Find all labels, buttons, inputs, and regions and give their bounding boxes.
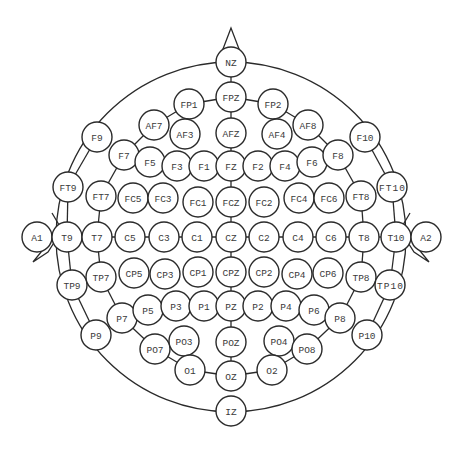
electrode-label: FT7 <box>92 192 109 203</box>
electrode-p6: P6 <box>299 295 329 325</box>
electrode-tp7: TP7 <box>86 262 116 292</box>
electrode-oz: OZ <box>216 361 246 391</box>
electrode-f5: F5 <box>135 147 165 177</box>
electrode-label: CP1 <box>189 268 206 279</box>
electrode-o2: O2 <box>257 355 287 385</box>
electrode-label: P4 <box>280 302 292 313</box>
electrode-afz: AFZ <box>216 118 246 148</box>
electrode-label: FC4 <box>290 194 307 205</box>
electrode-p7: P7 <box>107 303 137 333</box>
electrode-t10: T10 <box>381 222 411 252</box>
electrode-ft10: FT10 <box>377 172 407 202</box>
electrode-cp2: CP2 <box>249 257 279 287</box>
electrode-f3: F3 <box>162 151 192 181</box>
electrode-label: C1 <box>191 233 203 244</box>
electrode-fpz: FPZ <box>216 82 246 112</box>
electrode-label: CP3 <box>156 270 173 281</box>
electrode-label: C5 <box>124 233 136 244</box>
electrode-fp1: FP1 <box>174 89 204 119</box>
electrode-label: T7 <box>91 233 102 244</box>
electrode-c1: C1 <box>182 222 212 252</box>
electrode-cz: CZ <box>216 222 246 252</box>
electrode-cp4: CP4 <box>282 259 312 289</box>
electrode-label: PO7 <box>146 345 163 356</box>
eeg-electrode-diagram: NZFPZFP1FP2AF7AF3AFZAF4AF8F9F7F5F3F1FZF2… <box>0 0 462 451</box>
electrode-label: FP1 <box>180 100 197 111</box>
electrode-label: FP2 <box>264 100 281 111</box>
electrode-po4: PO4 <box>264 326 294 356</box>
electrode-p3: P3 <box>161 291 191 321</box>
electrode-f7: F7 <box>109 140 139 170</box>
electrode-label: TP9 <box>63 281 80 292</box>
electrode-p10: P10 <box>352 320 382 350</box>
electrode-fz: FZ <box>216 151 246 181</box>
electrode-label: P5 <box>142 306 154 317</box>
electrode-label: FZ <box>225 162 237 173</box>
electrode-tp10: TP10 <box>375 270 405 300</box>
electrode-fc1: FC1 <box>183 187 213 217</box>
electrode-t8: T8 <box>349 222 379 252</box>
electrode-f10: F10 <box>350 122 380 152</box>
electrode-iz: IZ <box>216 396 246 426</box>
electrode-fp2: FP2 <box>258 89 288 119</box>
electrode-label: P6 <box>308 306 320 317</box>
electrode-label: T9 <box>61 233 73 244</box>
electrode-poz: POZ <box>216 327 246 357</box>
electrode-label: FC3 <box>154 194 171 205</box>
electrode-label: O2 <box>266 366 278 377</box>
electrode-label: F9 <box>91 133 103 144</box>
electrode-label: FT10 <box>379 183 405 194</box>
electrode-cp6: CP6 <box>313 258 343 288</box>
electrode-label: FCZ <box>222 198 239 209</box>
electrode-label: T8 <box>358 233 370 244</box>
electrode-po7: PO7 <box>140 334 170 364</box>
electrode-po3: PO3 <box>169 326 199 356</box>
electrode-label: F7 <box>118 151 129 162</box>
electrode-label: C4 <box>292 233 304 244</box>
electrode-label: FC6 <box>320 194 337 205</box>
electrode-f9: F9 <box>82 122 112 152</box>
electrode-label: NZ <box>225 58 237 69</box>
electrode-cp3: CP3 <box>150 259 180 289</box>
electrode-label: AFZ <box>222 129 239 140</box>
electrode-f8: F8 <box>323 140 353 170</box>
electrode-label: AF8 <box>299 121 316 132</box>
electrode-af7: AF7 <box>139 110 169 140</box>
electrode-fcz: FCZ <box>216 187 246 217</box>
electrode-nz: NZ <box>216 47 246 77</box>
electrode-label: P7 <box>116 314 127 325</box>
electrode-label: P8 <box>334 314 346 325</box>
electrode-ft9: FT9 <box>53 172 83 202</box>
electrode-label: TP7 <box>92 273 109 284</box>
electrode-f1: F1 <box>189 151 219 181</box>
electrode-label: F3 <box>171 162 183 173</box>
electrode-p1: P1 <box>189 291 219 321</box>
electrode-p5: P5 <box>133 295 163 325</box>
electrode-o1: O1 <box>175 355 205 385</box>
electrode-label: PO8 <box>298 345 315 356</box>
electrode-label: FC2 <box>255 198 272 209</box>
electrode-ft7: FT7 <box>86 181 116 211</box>
electrode-f2: F2 <box>243 151 273 181</box>
electrode-pz: PZ <box>216 291 246 321</box>
electrode-p8: P8 <box>325 303 355 333</box>
electrode-label: F10 <box>356 133 373 144</box>
electrode-af3: AF3 <box>170 119 200 149</box>
electrode-label: AF4 <box>268 130 285 141</box>
electrode-fc2: FC2 <box>249 187 279 217</box>
electrode-label: F2 <box>252 162 264 173</box>
electrode-fc4: FC4 <box>284 183 314 213</box>
electrode-label: FT8 <box>352 192 369 203</box>
electrode-label: CZ <box>225 233 237 244</box>
electrode-c4: C4 <box>283 222 313 252</box>
electrode-c2: C2 <box>249 222 279 252</box>
electrode-label: T10 <box>387 233 404 244</box>
electrode-fc3: FC3 <box>148 183 178 213</box>
electrode-cp1: CP1 <box>183 257 213 287</box>
electrode-label: P10 <box>358 331 375 342</box>
electrode-label: AF7 <box>145 121 162 132</box>
electrode-t7: T7 <box>82 222 112 252</box>
electrode-label: CP6 <box>319 269 336 280</box>
electrode-af8: AF8 <box>293 110 323 140</box>
electrode-label: FC1 <box>189 198 206 209</box>
